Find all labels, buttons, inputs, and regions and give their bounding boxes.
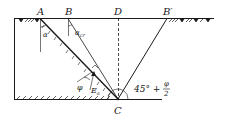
earth-pressure-diagram: A B D B′ C α αcr φ Ea 45° + φ 2 [0, 0, 231, 121]
angle-arc-45 [124, 91, 128, 99]
phi-arc [84, 77, 90, 80]
label-B-prime: B′ [162, 6, 173, 17]
label-B: B [64, 6, 72, 17]
ground-hatch-right [169, 19, 210, 22]
label-failure-phi: φ [164, 80, 169, 88]
label-failure-angle: 45° + [133, 84, 160, 94]
label-alpha: α [43, 31, 48, 39]
label-Ea: Ea [90, 86, 100, 96]
label-A: A [36, 6, 44, 17]
label-D: D [113, 6, 122, 17]
label-failure-den: 2 [163, 90, 169, 98]
ground-hatch-left [19, 19, 39, 22]
label-alpha-cr: αcr [75, 29, 86, 38]
label-phi: φ [77, 83, 83, 92]
alpha-cr-arc [69, 25, 73, 27]
label-C: C [114, 105, 122, 116]
point-C [117, 98, 119, 100]
base-hatch [17, 96, 110, 99]
